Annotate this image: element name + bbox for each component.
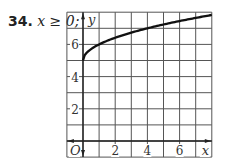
x-axis-label: x: [202, 143, 210, 158]
origin-label: O: [70, 143, 81, 158]
y-axis-arrow-up-icon: [81, 13, 85, 19]
x-tick-label: 2: [111, 144, 119, 158]
y-axis-label: y: [87, 12, 96, 27]
x-tick-label: 4: [144, 144, 152, 158]
y-axis-arrow-down-icon: [81, 150, 85, 156]
graph: 246246yxO: [0, 0, 226, 164]
y-tick-label: 2: [71, 103, 79, 117]
y-tick-label: 4: [71, 71, 79, 85]
y-tick-label: 6: [71, 38, 79, 52]
x-tick-label: 6: [176, 144, 184, 158]
